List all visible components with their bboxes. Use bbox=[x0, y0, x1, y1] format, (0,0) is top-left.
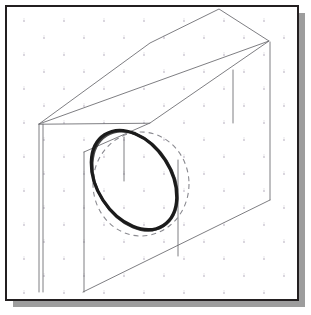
isometric-dot-grid bbox=[7, 7, 297, 299]
drawing-canvas[interactable] bbox=[0, 0, 311, 315]
sketch-viewport bbox=[0, 0, 311, 315]
